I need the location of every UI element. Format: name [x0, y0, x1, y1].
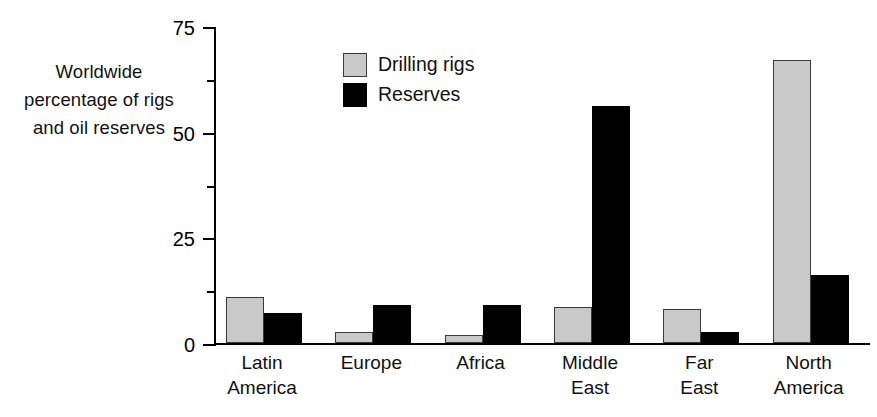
y-axis-minor-tick — [207, 80, 216, 82]
legend-item-reserves: Reserves — [343, 80, 474, 110]
bar-reserves — [264, 313, 302, 343]
x-axis-label: MiddleEast — [530, 350, 650, 400]
legend-swatch-drilling-rigs — [343, 53, 367, 77]
x-axis-label-line-1: Middle — [530, 350, 650, 375]
bar-drilling-rigs — [226, 297, 264, 343]
y-axis-tick-label: 0 — [184, 335, 195, 355]
chart-legend: Drilling rigs Reserves — [343, 50, 474, 110]
x-axis-label: NorthAmerica — [749, 350, 869, 400]
y-axis-minor-tick — [207, 186, 216, 188]
y-axis-caption-line-1: Worldwide — [6, 58, 192, 86]
x-axis-labels: LatinAmericaEuropeAfricaMiddleEastFarEas… — [214, 350, 870, 412]
x-axis-label-line-2: America — [749, 375, 869, 400]
y-axis-caption: Worldwide percentage of rigs and oil res… — [6, 58, 192, 142]
bar-reserves — [373, 305, 411, 343]
plot-area: 7550250 — [214, 28, 870, 345]
x-axis-label: LatinAmerica — [202, 350, 322, 400]
x-axis-label: FarEast — [639, 350, 759, 400]
legend-label-reserves: Reserves — [378, 85, 460, 105]
x-axis-label-line-1: Far — [639, 350, 759, 375]
y-axis-major-tick: 50 — [203, 133, 216, 135]
y-axis-major-tick: 25 — [203, 238, 216, 240]
bar-drilling-rigs — [554, 307, 592, 343]
bar-reserves — [592, 106, 630, 343]
y-axis-tick-label: 50 — [173, 123, 195, 143]
bar-drilling-rigs — [663, 309, 701, 343]
bar-drilling-rigs — [335, 332, 373, 343]
bar-group — [554, 28, 630, 343]
bar-reserves — [811, 275, 849, 343]
bar-chart-figure: Worldwide percentage of rigs and oil res… — [0, 0, 877, 417]
legend-swatch-reserves — [343, 83, 367, 107]
bar-drilling-rigs — [773, 60, 811, 343]
x-axis-label-line-1: Latin — [202, 350, 322, 375]
y-axis-minor-tick — [207, 291, 216, 293]
x-axis-label-line-2: East — [639, 375, 759, 400]
bar-series-container — [216, 28, 870, 343]
x-axis-label-line-1: North — [749, 350, 869, 375]
x-axis-label-line-2: East — [530, 375, 650, 400]
bar-group — [663, 28, 739, 343]
x-axis-label: Africa — [421, 350, 541, 375]
x-axis-label-line-1: Europe — [311, 350, 431, 375]
y-axis-caption-line-3: and oil reserves — [6, 114, 192, 142]
y-axis-major-tick: 75 — [203, 27, 216, 29]
x-axis-label: Europe — [311, 350, 431, 375]
y-axis-major-tick: 0 — [203, 344, 216, 346]
legend-item-drilling-rigs: Drilling rigs — [343, 50, 474, 80]
bar-drilling-rigs — [445, 335, 483, 343]
x-axis-label-line-2: America — [202, 375, 322, 400]
bar-group — [226, 28, 302, 343]
y-axis-tick-label: 25 — [173, 229, 195, 249]
x-axis-line — [214, 343, 870, 345]
bar-group — [773, 28, 849, 343]
bar-reserves — [701, 332, 739, 343]
y-axis-tick-label: 75 — [173, 18, 195, 38]
legend-label-drilling-rigs: Drilling rigs — [378, 55, 474, 75]
y-axis-caption-line-2: percentage of rigs — [6, 86, 192, 114]
x-axis-label-line-1: Africa — [421, 350, 541, 375]
bar-reserves — [483, 305, 521, 343]
